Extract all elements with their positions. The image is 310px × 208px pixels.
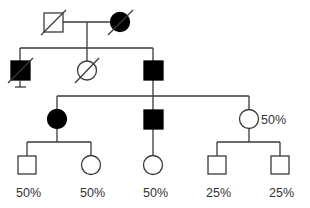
pedigree-chart: 50% 50% 50% 50% 25% 25% xyxy=(0,0,310,208)
individual-IV-2: 50% xyxy=(80,156,105,201)
individual-III-1 xyxy=(48,110,67,129)
individual-III-3: 50% xyxy=(240,110,287,129)
male-affected-square-icon xyxy=(144,61,163,80)
individual-IV-3: 50% xyxy=(143,156,168,201)
risk-label-III-3: 50% xyxy=(261,113,286,127)
risk-label-IV-2: 50% xyxy=(80,186,105,200)
risk-label-IV-4: 25% xyxy=(206,186,231,200)
male-unaffected-square-icon xyxy=(271,156,289,174)
individual-I-1 xyxy=(41,10,66,35)
risk-label-IV-5: 25% xyxy=(269,186,294,200)
connector-lines xyxy=(20,22,280,156)
individual-II-1 xyxy=(8,58,33,87)
male-affected-square-icon xyxy=(144,110,163,129)
male-unaffected-square-icon xyxy=(208,156,226,174)
individual-III-2 xyxy=(144,110,163,129)
risk-label-IV-1: 50% xyxy=(16,186,41,200)
individual-IV-5: 25% xyxy=(269,156,294,200)
female-affected-circle-icon xyxy=(111,13,130,32)
female-unaffected-circle-icon xyxy=(144,156,163,175)
individual-II-3 xyxy=(144,61,163,80)
individual-IV-1: 50% xyxy=(16,156,41,200)
female-unaffected-circle-icon xyxy=(240,110,259,129)
female-affected-circle-icon xyxy=(48,110,67,129)
individual-IV-4: 25% xyxy=(206,156,231,200)
risk-label-IV-3: 50% xyxy=(143,186,168,200)
female-unaffected-circle-icon xyxy=(82,156,101,175)
individual-II-2 xyxy=(75,58,99,83)
individual-I-2 xyxy=(108,10,133,35)
male-unaffected-square-icon xyxy=(18,156,36,174)
